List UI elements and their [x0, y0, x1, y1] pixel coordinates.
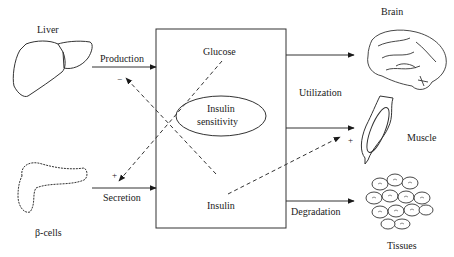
- liver-icon: [13, 41, 92, 97]
- pancreas-icon: [18, 163, 87, 213]
- brain-icon: [368, 30, 447, 89]
- secretion-label: Secretion: [103, 192, 141, 204]
- central-box: [156, 29, 286, 228]
- plus-sign-secretion: +: [112, 170, 117, 180]
- tissues-label: Tissues: [387, 240, 417, 252]
- minus-sign: −: [117, 74, 122, 84]
- muscle-label: Muscle: [407, 132, 436, 144]
- brain-label: Brain: [381, 6, 403, 18]
- plus-sign-utilization: +: [348, 135, 353, 145]
- diagram-canvas: [0, 0, 454, 257]
- glucose-label: Glucose: [203, 46, 236, 58]
- insulin-sensitivity-line1: Insulin: [207, 103, 235, 115]
- tissues-icon: [366, 174, 433, 229]
- production-label: Production: [100, 53, 144, 65]
- utilization-label: Utilization: [299, 87, 342, 99]
- muscle-icon: [361, 96, 393, 164]
- insulin-sensitivity-line2: sensitivity: [197, 116, 238, 128]
- insulin-label: Insulin: [207, 200, 235, 212]
- degradation-label: Degradation: [291, 206, 340, 218]
- beta-cells-label: β-cells: [35, 227, 62, 239]
- liver-label: Liver: [37, 24, 59, 36]
- insulin-to-utilization-dashed-arrow: [228, 137, 340, 194]
